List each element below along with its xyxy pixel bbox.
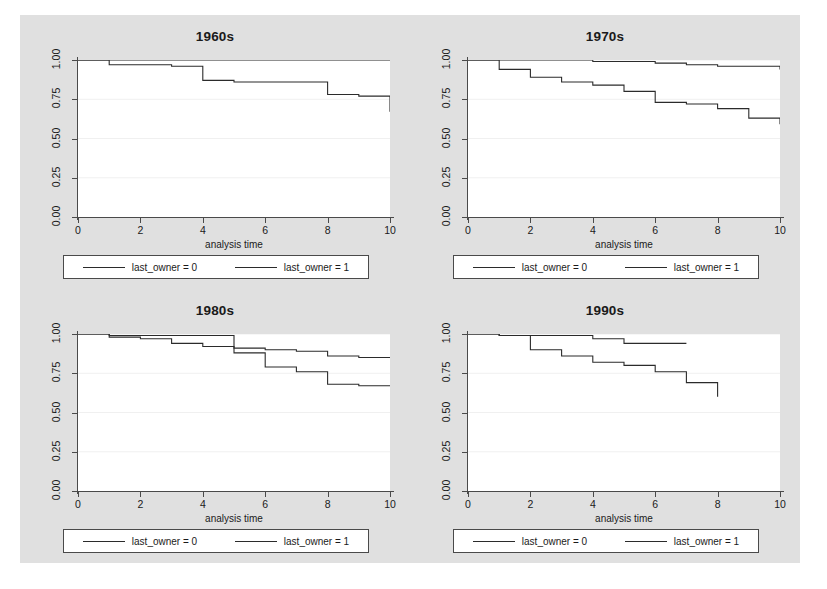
y-axis-line: [467, 331, 468, 494]
y-axis-tick: [72, 178, 77, 179]
y-axis-tick: [72, 60, 77, 61]
x-axis-tick: [328, 218, 329, 223]
y-axis-tick: [462, 139, 467, 140]
y-axis-tick-label: 0.00: [440, 200, 452, 232]
x-axis-tick-label: 10: [375, 498, 405, 510]
x-axis-tick: [718, 492, 719, 497]
x-axis-tick-label: 10: [765, 224, 795, 236]
y-axis-tick-label: 1.00: [50, 43, 62, 75]
y-axis-tick: [462, 217, 467, 218]
x-axis-tick: [780, 218, 781, 223]
x-axis-tick-label: 0: [453, 498, 483, 510]
panel-1960s: 1960s 0.000.250.500.751.000246810 analys…: [20, 15, 410, 289]
x-axis-tick-label: 10: [765, 498, 795, 510]
y-axis-tick: [72, 99, 77, 100]
panel-title: 1960s: [20, 29, 410, 44]
y-axis-tick: [72, 373, 77, 374]
x-axis-tick: [593, 492, 594, 497]
plot-svg: [468, 334, 780, 491]
y-axis-tick-label: 0.00: [50, 474, 62, 506]
y-axis-tick: [462, 491, 467, 492]
x-axis-tick: [593, 218, 594, 223]
x-axis-caption: analysis time: [468, 239, 780, 250]
figure-canvas: 1960s 0.000.250.500.751.000246810 analys…: [20, 15, 800, 563]
x-axis-tick-label: 0: [63, 498, 93, 510]
x-axis-tick-label: 4: [578, 498, 608, 510]
x-axis-tick: [655, 218, 656, 223]
x-axis-tick-label: 8: [703, 498, 733, 510]
y-axis-tick: [72, 413, 77, 414]
x-axis-tick: [78, 218, 79, 223]
x-axis-caption: analysis time: [78, 513, 390, 524]
y-axis-tick: [72, 491, 77, 492]
x-axis-line: [74, 491, 394, 492]
x-axis-tick-label: 0: [63, 224, 93, 236]
x-axis-tick: [780, 492, 781, 497]
legend-line-icon: [473, 267, 515, 268]
y-axis-tick: [72, 217, 77, 218]
figure-root: 1960s 0.000.250.500.751.000246810 analys…: [0, 0, 827, 589]
legend-entry-last-owner-0: last_owner = 0: [473, 262, 587, 273]
y-axis-tick-label: 1.00: [50, 317, 62, 349]
y-axis-tick-label: 0.00: [440, 474, 452, 506]
x-axis-tick: [203, 492, 204, 497]
survival-curve: [468, 60, 780, 124]
y-axis-tick: [462, 452, 467, 453]
legend: last_owner = 0 last_owner = 1: [63, 529, 369, 553]
y-axis-tick: [72, 334, 77, 335]
x-axis-tick: [203, 218, 204, 223]
plot-svg: [468, 60, 780, 217]
x-axis-tick-label: 2: [125, 224, 155, 236]
x-axis-tick-label: 6: [250, 498, 280, 510]
y-axis-tick: [462, 334, 467, 335]
y-axis-tick-label: 0.25: [440, 161, 452, 193]
x-axis-tick: [468, 218, 469, 223]
legend-line-icon: [235, 541, 277, 542]
survival-curve: [468, 60, 780, 69]
x-axis-tick-label: 8: [313, 498, 343, 510]
panel-1980s: 1980s 0.000.250.500.751.000246810 analys…: [20, 289, 410, 563]
y-axis-tick: [72, 139, 77, 140]
y-axis-tick-label: 0.00: [50, 200, 62, 232]
x-axis-tick-label: 2: [125, 498, 155, 510]
x-axis-tick: [265, 218, 266, 223]
y-axis-tick: [462, 373, 467, 374]
y-axis-tick-label: 0.75: [50, 82, 62, 114]
x-axis-line: [74, 217, 394, 218]
x-axis-tick-label: 6: [640, 498, 670, 510]
panel-1970s: 1970s 0.000.250.500.751.000246810 analys…: [410, 15, 800, 289]
y-axis-tick: [462, 413, 467, 414]
legend-label: last_owner = 1: [674, 536, 739, 547]
x-axis-tick: [390, 492, 391, 497]
x-axis-caption: analysis time: [78, 239, 390, 250]
plot-area: [468, 334, 780, 491]
y-axis-tick-label: 1.00: [440, 317, 452, 349]
y-axis-tick-label: 0.75: [440, 82, 452, 114]
panel-title: 1970s: [410, 29, 800, 44]
y-axis-tick-label: 0.50: [50, 396, 62, 428]
panel-1990s: 1990s 0.000.250.500.751.000246810 analys…: [410, 289, 800, 563]
legend-label: last_owner = 0: [522, 262, 587, 273]
legend-label: last_owner = 0: [132, 536, 197, 547]
legend-line-icon: [625, 267, 667, 268]
y-axis-line: [77, 57, 78, 220]
x-axis-tick: [530, 218, 531, 223]
legend-label: last_owner = 0: [132, 262, 197, 273]
x-axis-line: [464, 491, 784, 492]
x-axis-tick-label: 6: [250, 224, 280, 236]
x-axis-tick-label: 2: [515, 224, 545, 236]
legend-entry-last-owner-0: last_owner = 0: [473, 536, 587, 547]
y-axis-tick-label: 0.75: [50, 356, 62, 388]
legend: last_owner = 0 last_owner = 1: [453, 529, 759, 553]
x-axis-tick-label: 4: [578, 224, 608, 236]
legend-entry-last-owner-0: last_owner = 0: [83, 536, 197, 547]
legend-entry-last-owner-1: last_owner = 1: [625, 262, 739, 273]
x-axis-tick-label: 8: [703, 224, 733, 236]
y-axis-tick-label: 1.00: [440, 43, 452, 75]
legend-entry-last-owner-1: last_owner = 1: [625, 536, 739, 547]
x-axis-tick: [140, 218, 141, 223]
legend: last_owner = 0 last_owner = 1: [453, 255, 759, 279]
x-axis-tick: [78, 492, 79, 497]
x-axis-tick: [530, 492, 531, 497]
legend-line-icon: [625, 541, 667, 542]
